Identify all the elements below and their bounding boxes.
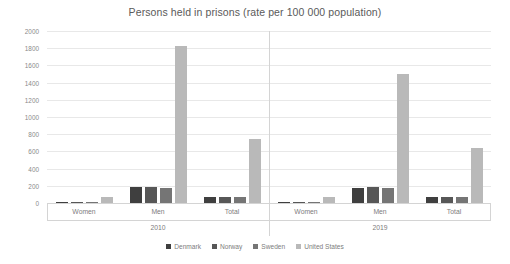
legend-item-sweden[interactable]: Sweden <box>253 243 285 250</box>
legend-label: United States <box>304 243 344 250</box>
chart-title: Persons held in prisons (rate per 100 00… <box>0 6 510 18</box>
category-label: Men <box>151 208 164 215</box>
bar-denmark[interactable] <box>130 187 142 203</box>
plot-year-separator <box>269 31 270 203</box>
y-axis-tick-label: 1800 <box>25 45 39 52</box>
bar-group <box>121 31 195 203</box>
plot-area <box>47 31 491 203</box>
bar-group <box>195 31 269 203</box>
bar-norway[interactable] <box>145 187 157 203</box>
year-label-2019: 2019 <box>372 224 387 231</box>
y-axis-tick-label: 1600 <box>25 62 39 69</box>
year-group-separator <box>269 204 270 236</box>
legend-label: Norway <box>220 243 242 250</box>
category-axis: WomenMenTotalWomenMenTotal20102019 <box>47 203 491 243</box>
category-label: Women <box>72 208 95 215</box>
legend-swatch-icon <box>212 244 217 249</box>
legend-swatch-icon <box>253 244 258 249</box>
legend-label: Sweden <box>261 243 285 250</box>
bar-us[interactable] <box>397 74 409 203</box>
bar-sweden[interactable] <box>382 188 394 203</box>
legend-swatch-icon <box>296 244 301 249</box>
bar-us[interactable] <box>249 139 261 203</box>
bar-group <box>47 31 121 203</box>
axis-tick-mark <box>490 204 491 220</box>
category-label: Women <box>294 208 317 215</box>
year-label-2010: 2010 <box>150 224 165 231</box>
bar-group <box>269 31 343 203</box>
axis-tick-mark <box>47 204 48 220</box>
bar-denmark[interactable] <box>352 188 364 203</box>
bar-us[interactable] <box>471 148 483 203</box>
y-axis-tick-label: 600 <box>28 148 39 155</box>
category-label: Total <box>225 208 239 215</box>
bar-sweden[interactable] <box>160 188 172 203</box>
bars-layer <box>47 31 491 203</box>
legend-item-norway[interactable]: Norway <box>212 243 242 250</box>
bar-norway[interactable] <box>367 187 379 203</box>
bar-us[interactable] <box>175 46 187 203</box>
legend-item-us[interactable]: United States <box>296 243 344 250</box>
y-axis-tick-label: 2000 <box>25 28 39 35</box>
y-axis-tick-label: 200 <box>28 182 39 189</box>
y-axis-tick-label: 800 <box>28 131 39 138</box>
legend-swatch-icon <box>166 244 171 249</box>
category-label: Men <box>373 208 386 215</box>
category-label: Total <box>447 208 461 215</box>
chart-container: Persons held in prisons (rate per 100 00… <box>0 0 510 264</box>
bar-group <box>417 31 491 203</box>
y-axis: 2000180016001400120010008006004002000 <box>0 31 43 203</box>
y-axis-tick-label: 0 <box>35 200 39 207</box>
legend-label: Denmark <box>174 243 201 250</box>
y-axis-tick-label: 400 <box>28 165 39 172</box>
bar-group <box>343 31 417 203</box>
y-axis-tick-label: 1200 <box>25 96 39 103</box>
chart-legend: DenmarkNorwaySwedenUnited States <box>0 243 510 250</box>
y-axis-tick-label: 1400 <box>25 79 39 86</box>
y-axis-tick-label: 1000 <box>25 114 39 121</box>
legend-item-denmark[interactable]: Denmark <box>166 243 201 250</box>
